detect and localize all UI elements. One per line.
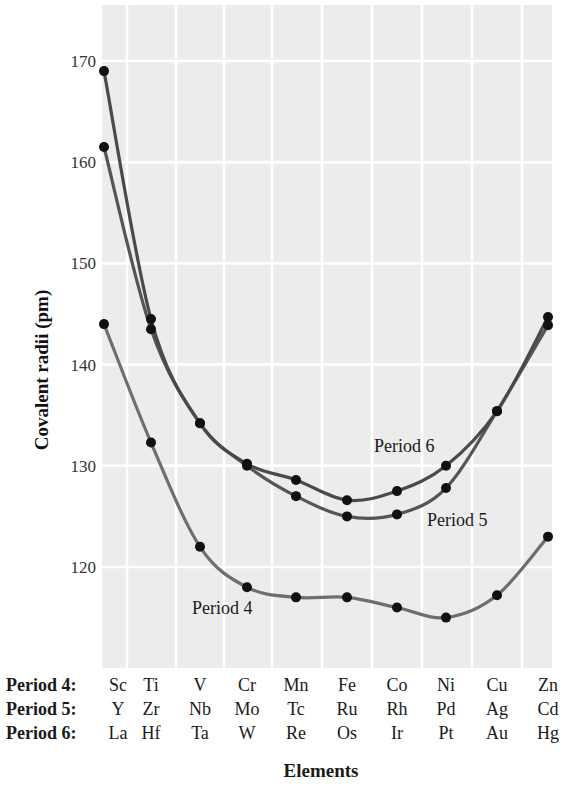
data-point (342, 495, 352, 505)
x-tick-label: Hg (523, 723, 572, 744)
x-axis-label: Elements (0, 760, 572, 782)
x-tick-label: Ir (372, 723, 422, 744)
x-tick-label: Co (372, 675, 422, 696)
x-tick-label: Ni (421, 675, 471, 696)
annotation-period-6: Period 6 (374, 436, 435, 456)
y-tick-label: 140 (71, 356, 97, 375)
x-tick-label: Zn (523, 675, 572, 696)
y-tick-label: 170 (71, 52, 97, 71)
data-point (242, 582, 252, 592)
x-tick-label: Mn (271, 675, 321, 696)
data-point (99, 319, 109, 329)
data-point (392, 486, 402, 496)
x-tick-label: V (175, 675, 225, 696)
data-point (392, 509, 402, 519)
data-point (99, 66, 109, 76)
data-point (146, 324, 156, 334)
data-point (441, 613, 451, 623)
data-point (291, 475, 301, 485)
data-point (195, 542, 205, 552)
x-tick-label: Cu (472, 675, 522, 696)
data-point (441, 461, 451, 471)
x-tick-label: Os (322, 723, 372, 744)
y-tick-label: 130 (71, 457, 97, 476)
data-point (242, 459, 252, 469)
x-tick-label: Au (472, 723, 522, 744)
data-point (291, 491, 301, 501)
x-tick-label: Cd (523, 699, 572, 720)
data-point (392, 602, 402, 612)
row-header: Period 4: (6, 675, 76, 696)
data-point (492, 590, 502, 600)
x-tick-label: Hf (126, 723, 176, 744)
data-point (291, 592, 301, 602)
y-axis-ticks: 120130140150160170 (71, 52, 97, 577)
x-tick-label: Cr (222, 675, 272, 696)
x-axis-row-period-4: Period 4: ScTiVCrMnFeCoNiCuZn (6, 675, 572, 697)
x-tick-label: Mo (222, 699, 272, 720)
row-header: Period 6: (6, 723, 76, 744)
x-tick-label: Ag (472, 699, 522, 720)
x-tick-label: Nb (175, 699, 225, 720)
x-tick-label: Re (271, 723, 321, 744)
x-tick-label: Ti (126, 675, 176, 696)
data-point (146, 438, 156, 448)
data-point (342, 511, 352, 521)
y-tick-label: 160 (71, 153, 97, 172)
x-tick-label: Ru (322, 699, 372, 720)
plot-area (102, 5, 552, 668)
data-point (195, 418, 205, 428)
data-point (492, 406, 502, 416)
x-tick-label: W (222, 723, 272, 744)
x-tick-label: Fe (322, 675, 372, 696)
data-point (146, 314, 156, 324)
annotation-period-4: Period 4 (192, 598, 253, 618)
x-tick-label: Rh (372, 699, 422, 720)
x-axis-row-period-5: Period 5: YZrNbMoTcRuRhPdAgCd (6, 699, 572, 721)
y-axis-label: Covalent radii (pm) (31, 290, 53, 450)
y-tick-label: 150 (71, 254, 97, 273)
x-axis-row-period-6: Period 6: LaHfTaWReOsIrPtAuHg (6, 723, 572, 745)
annotation-period-5: Period 5 (427, 510, 488, 530)
data-point (543, 532, 553, 542)
data-point (441, 483, 451, 493)
data-point (99, 142, 109, 152)
data-point (342, 592, 352, 602)
data-point (543, 312, 553, 322)
x-tick-label: Zr (126, 699, 176, 720)
x-tick-label: Pd (421, 699, 471, 720)
x-tick-label: Ta (175, 723, 225, 744)
row-header: Period 5: (6, 699, 76, 720)
x-tick-label: Pt (421, 723, 471, 744)
x-tick-label: Tc (271, 699, 321, 720)
y-tick-label: 120 (71, 558, 97, 577)
